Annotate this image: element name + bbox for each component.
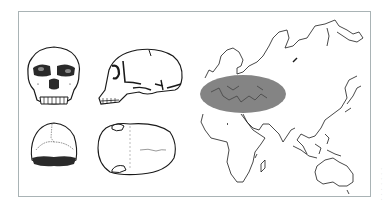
southeast-asia-islands	[293, 134, 341, 158]
europe-coastline	[205, 30, 293, 78]
madagascar	[261, 160, 265, 172]
japan	[345, 86, 361, 112]
distribution-map	[197, 16, 369, 194]
africa	[201, 114, 265, 182]
skull-frontal-illustration	[24, 44, 84, 110]
asia-north-coastline	[293, 20, 363, 46]
skull-lateral-illustration	[97, 46, 187, 108]
east-asia-coastline	[297, 76, 357, 154]
skull-posterior-illustration	[28, 120, 80, 172]
range-highlight-ellipse	[200, 75, 286, 113]
skull-superior-illustration	[96, 120, 178, 178]
south-asia-coastline	[241, 114, 295, 142]
australia	[315, 158, 353, 194]
side-caption: · · · · · · ·	[377, 100, 385, 200]
